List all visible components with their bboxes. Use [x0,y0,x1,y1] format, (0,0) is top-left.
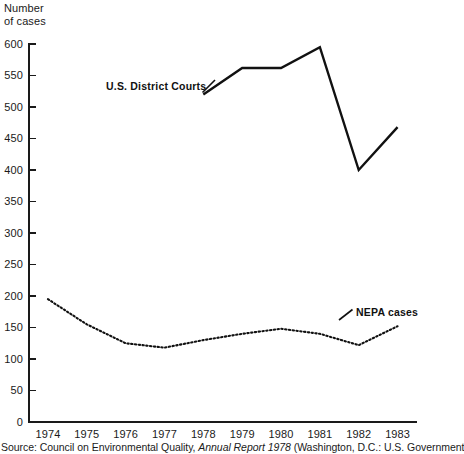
x-tick-label: 1978 [183,429,223,440]
y-tick-label: 0 [0,417,23,428]
source-suffix: (Washington, D.C.: U.S. Government [291,441,464,453]
y-tick-label: 150 [0,322,23,333]
series-label-nepa-cases: NEPA cases [356,306,418,318]
x-tick-label: 1974 [28,429,68,440]
series-label-us-district-courts: U.S. District Courts [106,80,206,92]
y-tick-label: 450 [0,133,23,144]
y-tick-label: 50 [0,385,23,396]
x-tick-label: 1976 [106,429,146,440]
x-tick-label: 1975 [67,429,107,440]
series-line-nepa-cases [48,299,398,348]
leader-nepa-cases [339,310,353,321]
x-tick-label: 1981 [300,429,340,440]
x-tick-label: 1983 [378,429,418,440]
x-tick-label: 1977 [144,429,184,440]
source-prefix: Source: Council on Environmental Quality… [1,441,198,453]
source-italic-title: Annual Report 1978 [198,441,291,453]
chart-series [48,47,398,348]
y-tick-label: 550 [0,70,23,81]
y-tick-label: 300 [0,228,23,239]
series-line-us-district-courts [203,47,397,170]
source-note: Source: Council on Environmental Quality… [1,441,426,453]
y-tick-label: 200 [0,291,23,302]
y-tick-label: 100 [0,354,23,365]
x-tick-label: 1982 [339,429,379,440]
y-tick-label: 600 [0,39,23,50]
chart-axes [28,43,418,422]
x-tick-label: 1980 [261,429,301,440]
y-tick-label: 500 [0,102,23,113]
y-tick-label: 400 [0,165,23,176]
x-tick-label: 1979 [222,429,262,440]
y-tick-label: 250 [0,259,23,270]
y-tick-label: 350 [0,196,23,207]
